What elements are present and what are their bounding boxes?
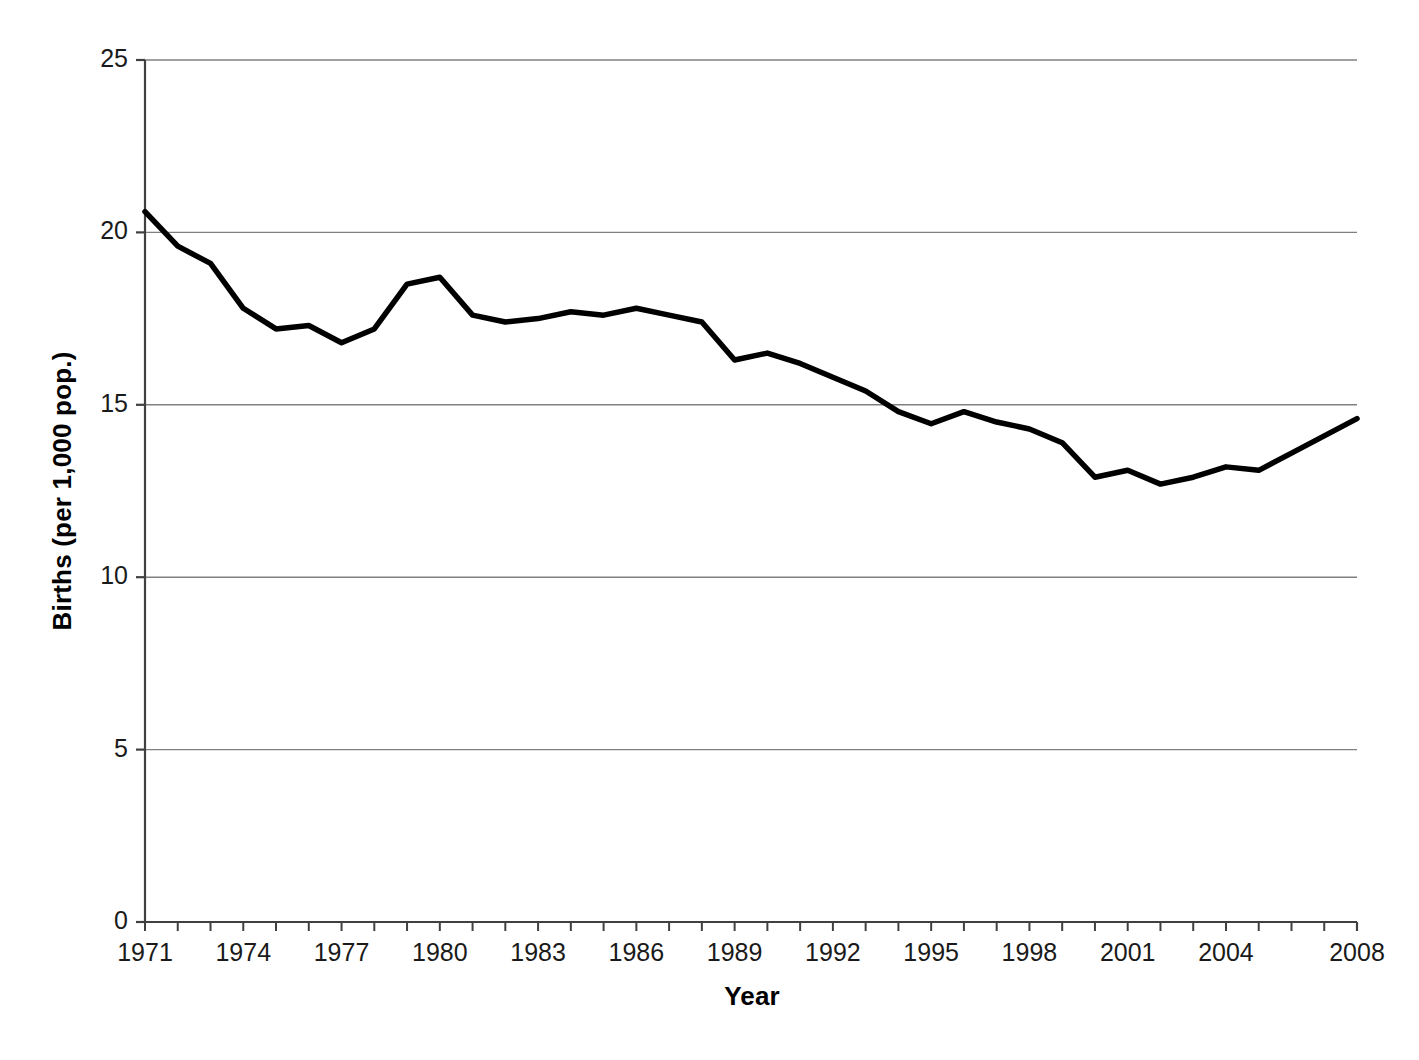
gridlines — [145, 60, 1357, 750]
y-axis-tick-label: 5 — [58, 734, 128, 763]
x-axis-ticks — [145, 922, 1357, 931]
axis-lines — [145, 60, 1357, 922]
x-axis-title: Year — [602, 981, 902, 1012]
data-line — [145, 212, 1357, 484]
birth-rate-line-chart: 0510152025 19711974197719801983198619891… — [0, 0, 1419, 1060]
y-axis-tick-label: 25 — [58, 44, 128, 73]
data-line-series — [145, 212, 1357, 484]
y-axis-tick-label: 0 — [58, 906, 128, 935]
x-axis-tick-label: 2008 — [1297, 938, 1417, 967]
x-axis-tick-label: 2004 — [1166, 938, 1286, 967]
y-axis-title: Births (per 1,000 pop.) — [47, 351, 78, 630]
y-axis-tick-label: 20 — [58, 216, 128, 245]
y-axis-ticks — [136, 60, 145, 922]
chart-plot-area — [0, 0, 1419, 1060]
